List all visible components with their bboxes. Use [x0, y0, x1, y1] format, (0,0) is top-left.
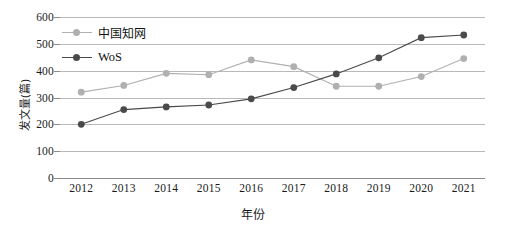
data-point: [78, 89, 85, 96]
data-point: [375, 83, 382, 90]
x-tick-label-2021: 2021: [452, 182, 476, 194]
y-axis-title-text: 发文量(篇): [16, 50, 32, 160]
y-tick-label-500: 500: [36, 38, 54, 50]
data-point: [248, 57, 255, 64]
y-tick-label-600: 600: [36, 11, 54, 23]
y-tick-label-100: 100: [36, 145, 54, 157]
x-tick-label-2016: 2016: [239, 182, 263, 194]
data-point: [120, 82, 127, 89]
x-tick-label-2020: 2020: [409, 182, 433, 194]
legend-item-wos[interactable]: WoS: [62, 50, 146, 65]
x-tick-label-2018: 2018: [324, 182, 348, 194]
legend-marker-icon: [62, 28, 92, 38]
data-point: [418, 34, 425, 41]
data-point: [205, 102, 212, 109]
data-point: [205, 71, 212, 78]
line-chart: 0100200300400500600 20122013201420152016…: [0, 0, 506, 235]
data-point: [248, 95, 255, 102]
data-point: [290, 84, 297, 91]
data-point: [333, 83, 340, 90]
x-tick-label-2019: 2019: [367, 182, 391, 194]
legend-label: 中国知网: [98, 24, 146, 41]
x-tick-label-2013: 2013: [112, 182, 136, 194]
legend-item-cnki[interactable]: 中国知网: [62, 24, 146, 41]
y-tick-label-400: 400: [36, 65, 54, 77]
data-point: [333, 70, 340, 77]
data-point: [163, 70, 170, 77]
x-tick-label-2017: 2017: [282, 182, 306, 194]
y-axis-title: 发文量(篇): [0, 0, 14, 50]
data-point: [460, 55, 467, 62]
data-point: [120, 106, 127, 113]
y-tick-label-200: 200: [36, 118, 54, 130]
x-axis-title: 年份: [0, 205, 506, 222]
legend-marker-icon: [62, 53, 92, 63]
x-tick-label-2012: 2012: [69, 182, 93, 194]
legend: 中国知网WoS: [62, 24, 146, 65]
data-point: [375, 54, 382, 61]
data-point: [460, 32, 467, 39]
gridline-0: [60, 178, 485, 179]
data-point: [78, 121, 85, 128]
y-tick-label-300: 300: [36, 92, 54, 104]
data-point: [163, 103, 170, 110]
data-point: [290, 63, 297, 70]
x-tick-label-2014: 2014: [154, 182, 178, 194]
legend-label: WoS: [98, 50, 122, 65]
x-tick-label-2015: 2015: [197, 182, 221, 194]
data-point: [418, 73, 425, 80]
